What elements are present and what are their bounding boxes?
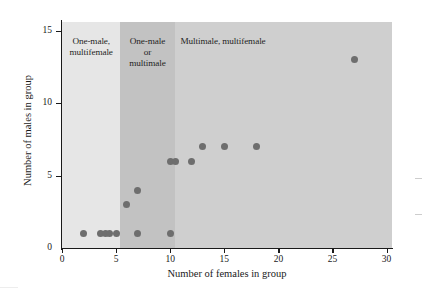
x-axis-tick <box>116 249 117 253</box>
y-axis-title: Number of males in group <box>22 31 33 231</box>
band-label-one-male-or-multimale: One-male or multimale <box>120 36 174 70</box>
x-axis-tick <box>387 249 388 253</box>
data-point <box>167 230 174 237</box>
x-axis-tick-label: 15 <box>212 254 236 264</box>
x-axis-title: Number of females in group <box>62 268 392 279</box>
x-axis-tick <box>62 249 63 253</box>
data-point <box>188 158 195 165</box>
y-axis-line <box>61 20 62 250</box>
data-point <box>134 187 141 194</box>
data-point <box>221 143 228 150</box>
x-axis-tick-label: 20 <box>266 254 290 264</box>
scan-artifact <box>415 214 422 215</box>
y-axis-tick <box>56 176 61 177</box>
data-point <box>172 158 179 165</box>
x-axis-tick-label: 25 <box>320 254 344 264</box>
x-axis-tick-label: 30 <box>375 254 399 264</box>
x-axis-tick <box>224 249 225 253</box>
x-axis-line <box>61 248 393 249</box>
x-axis-tick-label: 5 <box>104 254 128 264</box>
x-axis-tick-label: 0 <box>50 254 74 264</box>
x-axis-tick <box>332 249 333 253</box>
scatter-plot-figure: One-male, multifemale One-male or multim… <box>0 0 422 288</box>
y-axis-tick-label: 15 <box>30 25 52 35</box>
x-axis-tick <box>278 249 279 253</box>
y-axis-tick-label: 5 <box>30 170 52 180</box>
data-point <box>351 56 358 63</box>
y-axis-tick-label: 0 <box>30 242 52 252</box>
x-axis-tick <box>170 249 171 253</box>
scan-artifact <box>415 178 422 179</box>
data-point <box>113 230 120 237</box>
y-axis-tick <box>56 103 61 104</box>
background-band-multimale-multifemale <box>175 22 392 248</box>
x-axis-tick-label: 10 <box>158 254 182 264</box>
y-axis-tick <box>56 31 61 32</box>
band-label-multimale-multifemale: Multimale, multifemale <box>181 36 266 47</box>
band-label-one-male-multifemale: One-male, multifemale <box>62 36 120 58</box>
plot-area: One-male, multifemale One-male or multim… <box>62 22 392 248</box>
y-axis-tick-label: 10 <box>30 97 52 107</box>
